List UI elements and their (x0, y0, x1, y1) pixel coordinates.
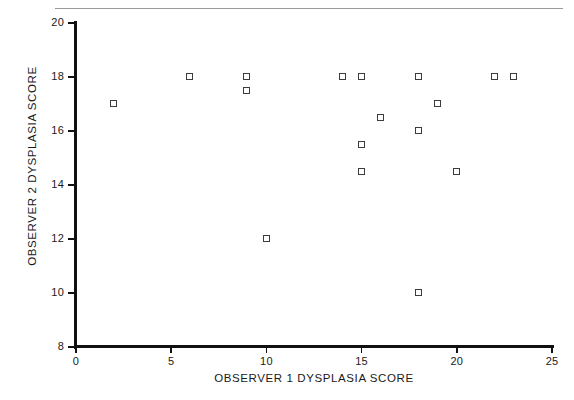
y-axis-tick-label: 20 (34, 16, 64, 28)
y-axis-tick (68, 130, 74, 132)
y-axis-tick-label: 14 (34, 178, 64, 190)
data-point (377, 114, 384, 121)
x-axis-tick (361, 347, 363, 353)
data-point (434, 100, 441, 107)
x-axis-tick-label: 25 (537, 355, 567, 367)
y-axis-tick-label: 18 (34, 70, 64, 82)
y-axis-tick (68, 22, 74, 24)
y-axis-tick (68, 292, 74, 294)
data-point (491, 73, 498, 80)
data-point (510, 73, 517, 80)
x-axis-tick (456, 347, 458, 353)
x-axis-tick-label: 10 (251, 355, 281, 367)
x-axis-title: OBSERVER 1 DYSPLASIA SCORE (76, 372, 552, 384)
y-axis-tick (68, 184, 74, 186)
page-header-strip (0, 0, 574, 10)
data-point (358, 168, 365, 175)
x-axis-tick-label: 0 (61, 355, 91, 367)
x-axis-tick (170, 347, 172, 353)
y-axis-tick-label: 8 (34, 340, 64, 352)
data-point (110, 100, 117, 107)
x-axis-tick (266, 347, 268, 353)
scatter-plot-area (76, 23, 552, 347)
data-point (415, 73, 422, 80)
data-point (243, 87, 250, 94)
y-axis-tick (68, 238, 74, 240)
x-axis-tick (75, 347, 77, 353)
y-axis-tick-label: 12 (34, 232, 64, 244)
y-axis-tick (68, 346, 74, 348)
x-axis-tick (551, 347, 553, 353)
data-point (263, 235, 270, 242)
data-point (186, 73, 193, 80)
y-axis-tick-label: 10 (34, 286, 64, 298)
data-point (339, 73, 346, 80)
header-divider (55, 8, 563, 9)
y-axis-tick-label: 16 (34, 124, 64, 136)
x-axis-tick-label: 15 (347, 355, 377, 367)
data-point (453, 168, 460, 175)
data-point (415, 127, 422, 134)
data-point (415, 289, 422, 296)
data-point (358, 141, 365, 148)
data-point (243, 73, 250, 80)
data-point (358, 73, 365, 80)
x-axis-tick-label: 20 (442, 355, 472, 367)
y-axis-tick (68, 76, 74, 78)
x-axis-tick-label: 5 (156, 355, 186, 367)
